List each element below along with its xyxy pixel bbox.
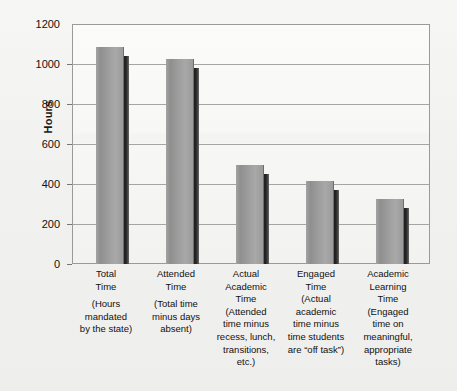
bar-front-actual-academic-time	[236, 165, 264, 264]
x-label-total-time-line-1: Total	[66, 268, 146, 281]
x-label-actual-academic-time-line-1: Actual	[206, 268, 286, 281]
y-tick-label-1200: 1200	[0, 19, 60, 30]
y-tick-mark-0	[67, 264, 72, 265]
bar-chart: Hours 1200 1000 800 600 400 200 0	[0, 0, 457, 391]
x-label-attended-time-desc-2: minus days	[136, 311, 216, 324]
y-tick-label-400: 400	[0, 179, 60, 190]
x-label-total-time: Total Time (Hours mandated by the state)	[66, 268, 146, 336]
y-tick-label-600: 600	[0, 139, 60, 150]
x-label-engaged-time-line-2: Time	[276, 281, 356, 294]
x-label-academic-learning-time: Academic Learning Time (Engaged time on …	[346, 268, 430, 369]
x-label-academic-learning-time-line-1: Academic	[346, 268, 430, 281]
x-label-engaged-time-desc-4: time students	[276, 331, 356, 344]
x-label-total-time-desc-2: mandated	[66, 311, 146, 324]
bar-total-time	[96, 24, 152, 264]
x-label-engaged-time-desc-1: (Actual	[276, 293, 356, 306]
x-label-attended-time-line-2: Time	[136, 281, 216, 294]
bar-actual-academic-time	[236, 24, 292, 264]
y-tick-label-1000: 1000	[0, 59, 60, 70]
x-label-academic-learning-time-line-3: Time	[346, 293, 430, 306]
x-label-attended-time-line-1: Attended	[136, 268, 216, 281]
x-label-engaged-time-desc-5: are “off task”)	[276, 344, 356, 357]
x-label-academic-learning-time-line-2: Learning	[346, 281, 430, 294]
x-label-attended-time: Attended Time (Total time minus days abs…	[136, 268, 216, 336]
x-label-total-time-desc-1: (Hours	[66, 298, 146, 311]
x-label-actual-academic-time: Actual Academic Time (Attended time minu…	[206, 268, 286, 369]
bar-series	[72, 24, 430, 264]
x-label-attended-time-desc-3: absent)	[136, 323, 216, 336]
x-label-actual-academic-time-desc-3: recess, lunch,	[206, 331, 286, 344]
x-label-academic-learning-time-desc-1: (Engaged	[346, 306, 430, 319]
x-label-actual-academic-time-desc-4: transitions,	[206, 344, 286, 357]
bar-front-attended-time	[166, 59, 194, 264]
x-label-engaged-time: Engaged Time (Actual academic time minus…	[276, 268, 356, 356]
bar-engaged-time	[306, 24, 362, 264]
x-label-engaged-time-desc-3: time minus	[276, 318, 356, 331]
x-label-actual-academic-time-desc-1: (Attended	[206, 306, 286, 319]
y-axis-tick-labels: 1200 1000 800 600 400 200 0	[0, 0, 67, 391]
bar-front-academic-learning-time	[376, 199, 404, 264]
bar-academic-learning-time	[376, 24, 432, 264]
x-label-engaged-time-line-1: Engaged	[276, 268, 356, 281]
x-label-actual-academic-time-desc-5: etc.)	[206, 356, 286, 369]
x-label-total-time-desc-3: by the state)	[66, 323, 146, 336]
x-label-academic-learning-time-desc-5: tasks)	[346, 356, 430, 369]
x-label-academic-learning-time-desc-2: time on	[346, 318, 430, 331]
x-label-actual-academic-time-line-3: Time	[206, 293, 286, 306]
x-label-total-time-line-2: Time	[66, 281, 146, 294]
x-axis-category-labels: Total Time (Hours mandated by the state)…	[72, 268, 430, 388]
bar-front-engaged-time	[306, 181, 334, 264]
x-label-academic-learning-time-desc-3: meaningful,	[346, 331, 430, 344]
y-tick-label-0: 0	[0, 259, 60, 270]
x-label-actual-academic-time-desc-2: time minus	[206, 318, 286, 331]
bar-attended-time	[166, 24, 222, 264]
y-tick-label-200: 200	[0, 219, 60, 230]
x-label-engaged-time-desc-2: academic	[276, 306, 356, 319]
bar-front-total-time	[96, 47, 124, 264]
x-label-attended-time-desc-1: (Total time	[136, 298, 216, 311]
y-tick-label-800: 800	[0, 99, 60, 110]
x-label-academic-learning-time-desc-4: appropriate	[346, 344, 430, 357]
x-label-actual-academic-time-line-2: Academic	[206, 281, 286, 294]
